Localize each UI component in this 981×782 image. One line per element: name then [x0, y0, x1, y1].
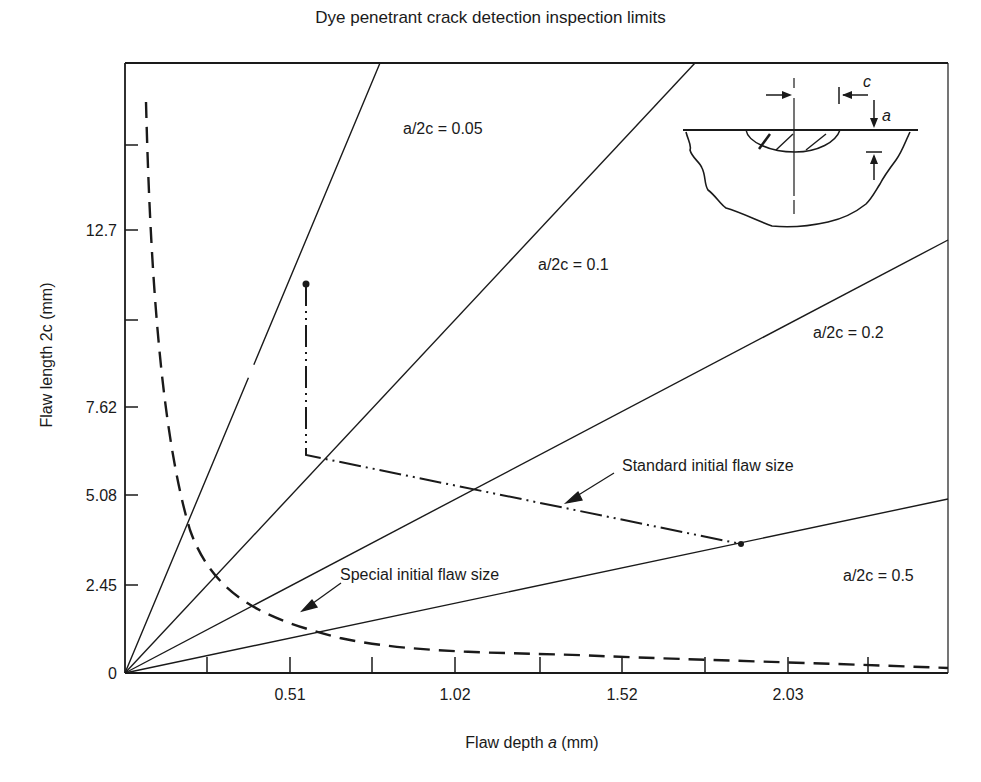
y-tick-2.45: 2.45: [86, 577, 117, 594]
x-tick-1.52: 1.52: [606, 686, 637, 703]
y-tick-5.08: 5.08: [86, 487, 117, 504]
crack-inset-diagram: [683, 78, 918, 227]
y-axis-labels: 12.7 7.62 5.08 2.45 0: [86, 222, 117, 682]
label-a2c-0.1: a/2c = 0.1: [538, 256, 609, 273]
label-special-initial-flaw: Special initial flaw size: [340, 566, 499, 583]
label-standard-initial-flaw: Standard initial flaw size: [622, 457, 794, 474]
y-tick-12.7: 12.7: [86, 222, 117, 239]
line-a2c-0.5: [125, 499, 948, 673]
x-axis-labels: 0.51 1.02 1.52 2.03: [274, 686, 803, 703]
label-a2c-0.2: a/2c = 0.2: [813, 324, 884, 341]
inset-label-c: c: [863, 73, 871, 90]
standard-initial-flaw-line: [303, 281, 745, 548]
y-tick-0: 0: [108, 665, 117, 682]
label-a2c-0.5: a/2c = 0.5: [843, 567, 914, 584]
marker-top: [303, 281, 310, 288]
annotation-arrows: [302, 473, 614, 611]
x-axis-title: Flaw depth a (mm): [465, 734, 598, 751]
line-a2c-0.2: [125, 240, 948, 673]
aspect-ratio-lines: [125, 63, 948, 673]
inset-label-a: a: [882, 107, 891, 124]
x-tick-2.03: 2.03: [772, 686, 803, 703]
chart-plot: 12.7 7.62 5.08 2.45 0 0.51 1.02 1.52 2.0…: [0, 0, 981, 782]
y-tick-7.62: 7.62: [86, 399, 117, 416]
label-a2c-0.05: a/2c = 0.05: [403, 120, 483, 137]
x-axis-ticks: [207, 657, 868, 673]
plot-frame: [125, 63, 948, 673]
marker-bottom: [738, 541, 744, 547]
x-tick-1.02: 1.02: [439, 686, 470, 703]
y-axis-ticks: [125, 145, 138, 585]
y-axis-title: Flaw length 2c (mm): [38, 283, 55, 428]
x-tick-0.51: 0.51: [274, 686, 305, 703]
